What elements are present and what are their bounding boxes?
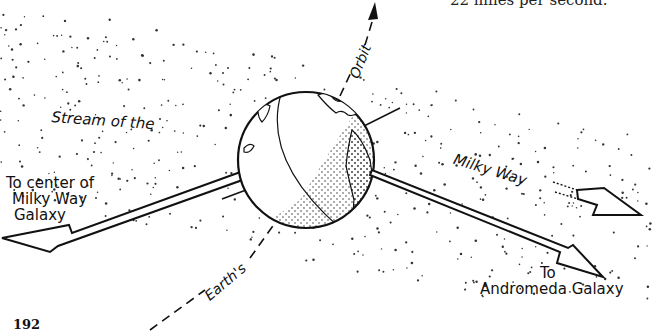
label-to-andromeda: To Andromeda Galaxy [480, 266, 624, 298]
orbit-arrowhead-icon [368, 2, 378, 20]
axis-line [364, 108, 400, 126]
arrow-milky-way-stream [553, 182, 641, 215]
label-line: Galaxy [6, 208, 94, 224]
label-to-galactic-center: To center of Milky Way Galaxy [6, 176, 94, 223]
tick-line [222, 190, 246, 199]
label-line: Andromeda Galaxy [480, 282, 624, 298]
illustration: 22 miles per second. To center of Milky … [0, 0, 656, 335]
arrow-to-andromeda [370, 170, 603, 277]
page-caption-fragment: 22 miles per second. [450, 0, 607, 9]
page-number: 192 [13, 317, 40, 332]
